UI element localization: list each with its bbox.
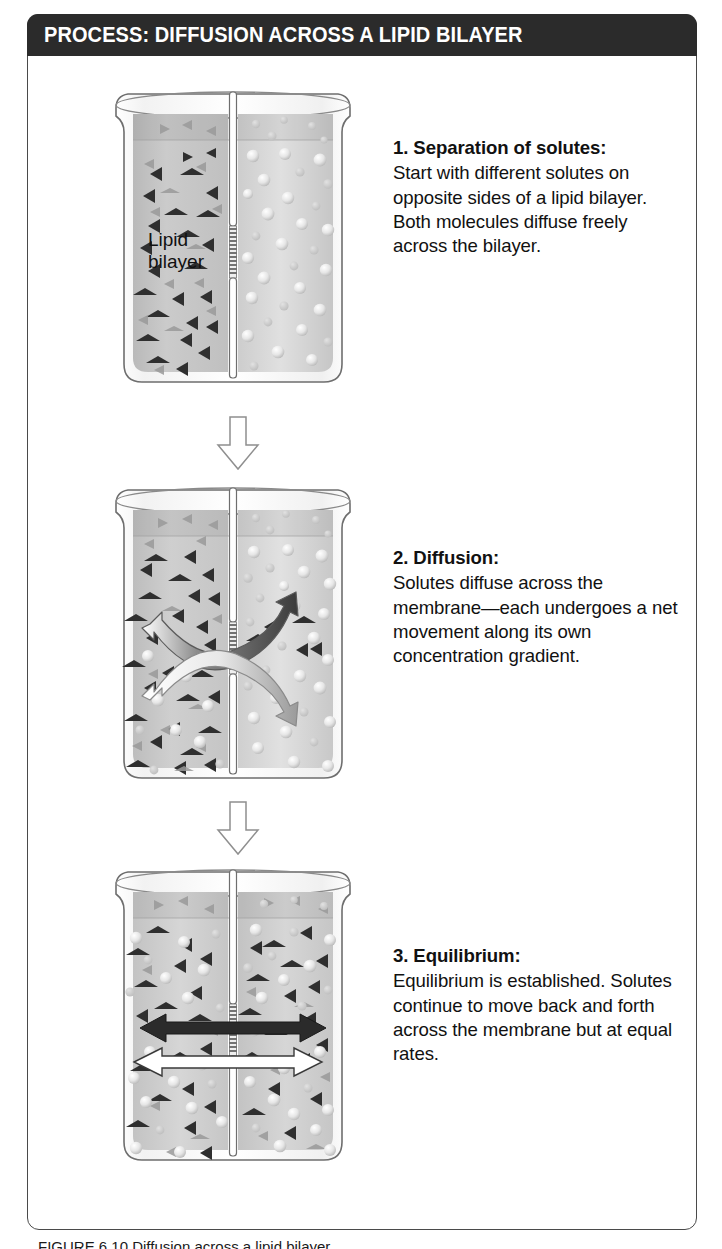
divider-rod-upper xyxy=(230,488,237,622)
lipid-bilayer-label-line1: Lipid xyxy=(148,229,188,250)
step-2-description: 2. Diffusion: Solutes diffuse across the… xyxy=(393,546,683,669)
divider-rod-lower xyxy=(230,278,237,378)
step-1-body: Start with different solutes on opposite… xyxy=(393,161,683,258)
lipid-bilayer-segment xyxy=(230,226,237,278)
beaker-step-3 xyxy=(88,856,378,1186)
step-2-title: 2. Diffusion: xyxy=(393,546,683,570)
flow-arrow-1-to-2 xyxy=(208,415,268,473)
beaker-step-2 xyxy=(88,474,378,804)
step-3-title: 3. Equilibrium: xyxy=(393,944,683,968)
step-3-description: 3. Equilibrium: Equilibrium is establish… xyxy=(393,944,683,1067)
step-3: 3. Equilibrium: Equilibrium is establish… xyxy=(0,856,722,1196)
step-2: 2. Diffusion: Solutes diffuse across the… xyxy=(0,474,722,814)
page-title-text: PROCESS: DIFFUSION ACROSS A LIPID BILAYE… xyxy=(44,23,523,48)
step-1-description: 1. Separation of solutes: Start with dif… xyxy=(393,136,683,259)
divider-rod-upper xyxy=(230,870,237,1004)
process-header-bar: PROCESS: DIFFUSION ACROSS A LIPID BILAYE… xyxy=(27,14,697,56)
divider-rod-lower xyxy=(230,674,237,774)
figure-caption: FIGURE 6.10 Diffusion across a lipid bil… xyxy=(38,1238,698,1249)
divider-rod-upper xyxy=(230,92,237,226)
step-1-title: 1. Separation of solutes: xyxy=(393,136,683,160)
page-title: PROCESS: DIFFUSION ACROSS A LIPID BILAYE… xyxy=(44,23,559,48)
beaker-step-1: Lipid bilayer xyxy=(88,78,378,408)
figure-root: PROCESS: DIFFUSION ACROSS A LIPID BILAYE… xyxy=(0,0,722,1249)
step-1: Lipid bilayer 1. Separation of solutes: … xyxy=(0,78,722,418)
lipid-bilayer-label-line2: bilayer xyxy=(148,251,205,272)
divider-rod-lower xyxy=(230,1056,237,1156)
step-2-body: Solutes diffuse across the membrane—each… xyxy=(393,571,683,668)
flow-arrow-2-to-3 xyxy=(208,800,268,858)
step-3-body: Equilibrium is established. Solutes cont… xyxy=(393,969,683,1066)
